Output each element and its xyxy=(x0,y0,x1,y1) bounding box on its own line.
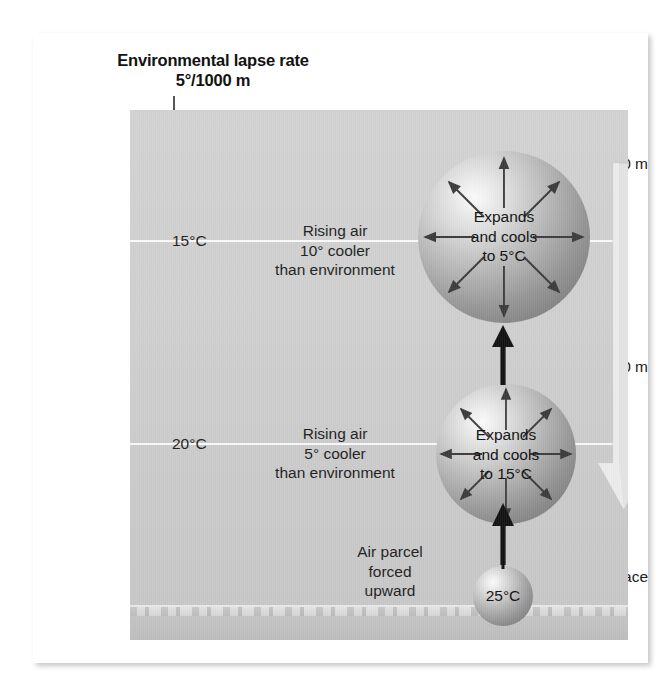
middle-parcel-line3: to 15°C xyxy=(436,464,576,484)
rising-arrow-stub-icon xyxy=(496,545,510,569)
middle-parcel-line2: and cools xyxy=(436,445,576,465)
ground-texture xyxy=(130,607,628,616)
annotation-lower: Air parcel forced upward xyxy=(332,542,448,601)
figure-title: Environmental lapse rate 5°/1000 m xyxy=(33,50,393,90)
surface-parcel-label: 25°C xyxy=(473,586,533,606)
annotation-upper-line3: than environment xyxy=(240,260,430,280)
annotation-middle: Rising air 5° cooler than environment xyxy=(240,424,430,483)
annotation-lower-line2: forced xyxy=(332,562,448,582)
atmosphere-panel: 15°C 20°C 25°C Rising air 10° cooler tha… xyxy=(130,110,628,640)
upper-parcel-line3: to 5°C xyxy=(418,246,590,266)
upper-parcel-line2: and cools xyxy=(418,227,590,247)
ground-band xyxy=(130,616,628,640)
temp-label-1000m: 20°C xyxy=(172,435,207,453)
middle-parcel-line1: Expands xyxy=(436,425,576,445)
upper-parcel-label: Expands and cools to 5°C xyxy=(418,207,590,266)
middle-parcel-label: Expands and cools to 15°C xyxy=(436,425,576,484)
upper-parcel-line1: Expands xyxy=(418,207,590,227)
annotation-middle-line3: than environment xyxy=(240,463,430,483)
figure-title-line2: 5°/1000 m xyxy=(33,70,393,90)
temp-label-2000m: 15°C xyxy=(172,232,207,250)
annotation-upper-line2: 10° cooler xyxy=(240,241,430,261)
annotation-middle-line2: 5° cooler xyxy=(240,444,430,464)
temp-label-surface: 25°C xyxy=(172,638,207,640)
annotation-lower-line3: upward xyxy=(332,581,448,601)
annotation-lower-line1: Air parcel xyxy=(332,542,448,562)
rising-arrow-upper-icon xyxy=(488,325,518,385)
annotation-upper-line1: Rising air xyxy=(240,221,430,241)
annotation-middle-line1: Rising air xyxy=(240,424,430,444)
annotation-upper: Rising air 10° cooler than environment xyxy=(240,221,430,280)
tendency-arrow-icon xyxy=(595,163,628,511)
figure-title-line1: Environmental lapse rate xyxy=(33,50,393,70)
figure-card: Environmental lapse rate 5°/1000 m 2000 … xyxy=(33,33,648,663)
